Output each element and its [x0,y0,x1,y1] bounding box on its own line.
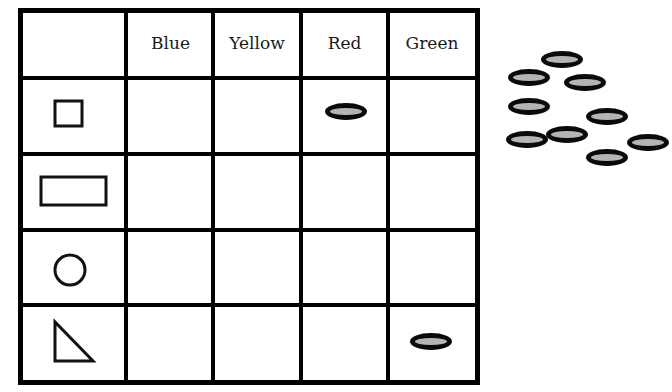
grid-outer-border [21,11,478,383]
circle-icon [55,255,85,285]
token-oval-loose[interactable] [541,51,583,68]
token-oval-loose[interactable] [506,131,548,148]
token-oval-loose[interactable] [508,69,550,86]
small-square-icon [55,101,82,126]
token-oval-placed-red-square[interactable] [325,103,367,120]
token-oval-loose[interactable] [586,149,628,166]
token-oval-placed-green-triangle[interactable] [410,333,452,350]
rectangle-icon [41,177,106,205]
token-oval-loose[interactable] [546,126,588,143]
token-oval-loose[interactable] [564,74,606,91]
right-triangle-icon [55,322,93,361]
column-header-yellow: Yellow [213,33,301,53]
column-header-green: Green [388,33,476,53]
column-header-blue: Blue [128,33,213,53]
token-oval-loose[interactable] [627,134,669,151]
column-header-red: Red [301,33,388,53]
token-oval-loose[interactable] [586,108,628,125]
token-oval-loose[interactable] [508,98,550,115]
